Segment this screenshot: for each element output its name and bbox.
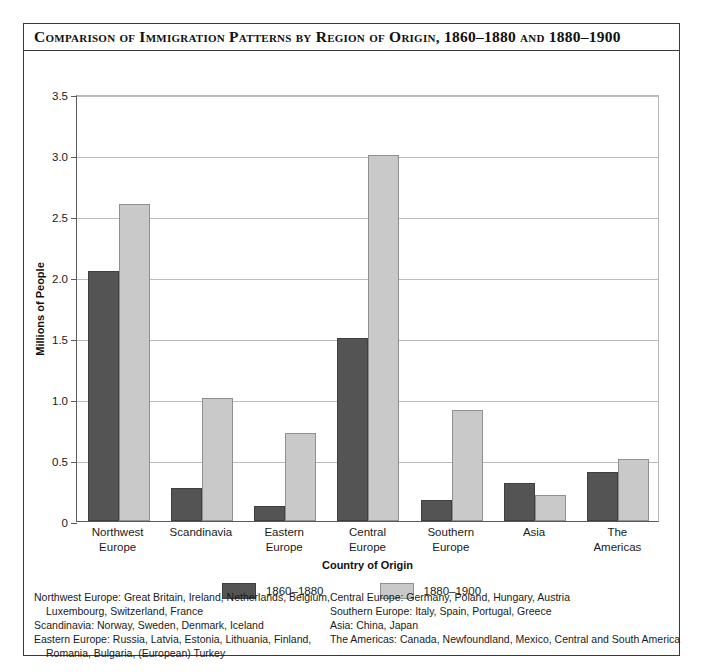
category-label-line: Europe — [243, 540, 326, 555]
plot-area: 00.51.01.52.02.53.03.5 — [76, 95, 659, 522]
category-label-line: Asia — [492, 525, 575, 540]
bar-group — [577, 96, 660, 521]
y-axis-tick-mark — [71, 523, 77, 524]
category-label-line: Europe — [409, 540, 492, 555]
footnote-column-left: Northwest Europe: Great Britain, Ireland… — [34, 590, 330, 655]
bar-series2[interactable] — [618, 459, 649, 521]
bar-group — [244, 96, 327, 521]
category-label-line: Scandinavia — [159, 525, 242, 540]
category-label-line: Eastern — [243, 525, 326, 540]
bar-series2[interactable] — [202, 398, 233, 521]
category-label-line: Europe — [326, 540, 409, 555]
bar-series1[interactable] — [504, 483, 535, 521]
x-axis-title: Country of Origin — [76, 559, 659, 571]
footnotes: Northwest Europe: Great Britain, Ireland… — [24, 590, 679, 655]
y-axis-tick-label: 0 — [62, 517, 68, 529]
footnote-line: Romania, Bulgaria, (European) Turkey — [34, 646, 330, 660]
bar-series1[interactable] — [421, 500, 452, 521]
footnote-line: Asia: China, Japan — [330, 618, 680, 632]
y-axis-title: Millions of People — [32, 95, 48, 522]
y-axis-tick-label: 3.5 — [52, 90, 68, 102]
x-axis-category-label: Asia — [492, 525, 575, 540]
x-axis-category-label: SouthernEurope — [409, 525, 492, 554]
y-axis-title-label: Millions of People — [34, 262, 46, 356]
gridline — [77, 523, 658, 524]
footnote-line: The Americas: Canada, Newfoundland, Mexi… — [330, 632, 680, 646]
chart-block: Millions of People 00.51.01.52.02.53.03.… — [24, 51, 679, 575]
x-axis-category-label: EasternEurope — [243, 525, 326, 554]
bar-series2[interactable] — [119, 204, 150, 521]
bar-series1[interactable] — [587, 472, 618, 521]
bar-series1[interactable] — [88, 271, 119, 521]
bar-group — [160, 96, 243, 521]
category-label-line: Americas — [576, 540, 659, 555]
footnote-line: Central Europe: Germany, Poland, Hungary… — [330, 590, 680, 604]
x-axis-category-label: TheAmericas — [576, 525, 659, 554]
bar-group — [77, 96, 160, 521]
x-axis-category-labels: NorthwestEuropeScandinaviaEasternEuropeC… — [76, 525, 659, 559]
figure-title-bar: Comparison of Immigration Patterns by Re… — [24, 24, 679, 51]
y-axis-tick-label: 3.0 — [52, 151, 68, 163]
category-label-line: Northwest — [76, 525, 159, 540]
category-label-line: Southern — [409, 525, 492, 540]
y-axis-tick-label: 2.0 — [52, 273, 68, 285]
page-top-text-fragment — [0, 0, 703, 9]
y-axis-tick-label: 0.5 — [52, 456, 68, 468]
page-title: Comparison of Immigration Patterns by Re… — [34, 28, 621, 46]
footnote-line: Southern Europe: Italy, Spain, Portugal,… — [330, 604, 680, 618]
bar-series2[interactable] — [285, 433, 316, 521]
y-axis-tick-label: 1.0 — [52, 395, 68, 407]
bar-series1[interactable] — [171, 488, 202, 521]
footnote-line: Scandinavia: Norway, Sweden, Denmark, Ic… — [34, 618, 330, 632]
bar-group — [493, 96, 576, 521]
x-axis-category-label: NorthwestEurope — [76, 525, 159, 554]
footnote-column-right: Central Europe: Germany, Poland, Hungary… — [330, 590, 680, 655]
x-axis-category-label: CentralEurope — [326, 525, 409, 554]
x-axis-category-label: Scandinavia — [159, 525, 242, 540]
bar-series2[interactable] — [452, 410, 483, 521]
y-axis-tick-label: 1.5 — [52, 334, 68, 346]
bar-series2[interactable] — [368, 155, 399, 521]
footnote-line: Eastern Europe: Russia, Latvia, Estonia,… — [34, 632, 330, 646]
bars-layer — [77, 96, 658, 521]
y-axis-tick-label: 2.5 — [52, 212, 68, 224]
bar-group — [410, 96, 493, 521]
category-label-line: Europe — [76, 540, 159, 555]
footnote-line: Northwest Europe: Great Britain, Ireland… — [34, 590, 330, 604]
bar-series1[interactable] — [254, 506, 285, 521]
category-label-line: The — [576, 525, 659, 540]
bar-series1[interactable] — [337, 338, 368, 521]
category-label-line: Central — [326, 525, 409, 540]
footnote-line: Luxembourg, Switzerland, France — [34, 604, 330, 618]
figure-frame: Comparison of Immigration Patterns by Re… — [23, 23, 680, 656]
bar-series2[interactable] — [535, 495, 566, 521]
bar-group — [327, 96, 410, 521]
